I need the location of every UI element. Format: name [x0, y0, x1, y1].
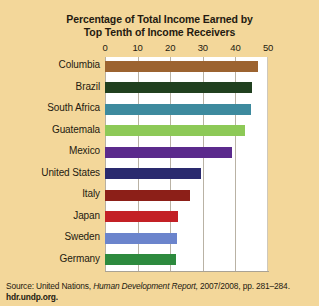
category-label-south-africa: South Africa: [47, 102, 100, 113]
x-tick-label-20: 20: [165, 42, 175, 53]
category-label-germany: Germany: [60, 253, 100, 264]
source-edition: 2007/2008,: [200, 281, 240, 291]
chart-title-line-2: Top Tenth of Income Receivers: [0, 26, 319, 39]
x-tick-label-30: 30: [198, 42, 208, 53]
category-label-japan: Japan: [73, 210, 100, 221]
chart-title-line-1: Percentage of Total Income Earned by: [66, 13, 252, 25]
x-tick-label-50: 50: [263, 42, 273, 53]
bar-brazil: [105, 82, 252, 93]
bar-japan: [105, 211, 178, 222]
x-axis-tick-labels: 01020304050: [0, 42, 319, 56]
bar-italy: [105, 190, 190, 201]
category-label-brazil: Brazil: [76, 81, 100, 92]
bar-rows: ColumbiaBrazilSouth AfricaGuatemalaMexic…: [0, 57, 319, 272]
category-label-guatemala: Guatemala: [52, 124, 100, 135]
bar-guatemala: [105, 125, 245, 136]
bar-south-africa: [105, 104, 251, 115]
bar-row: Columbia: [0, 57, 319, 79]
bar-row: South Africa: [0, 100, 319, 122]
source-url[interactable]: hdr.undp.org.: [6, 292, 316, 303]
x-tick-label-0: 0: [102, 42, 107, 53]
x-tick-label-10: 10: [133, 42, 143, 53]
category-label-sweden: Sweden: [64, 231, 100, 242]
bar-row: Guatemala: [0, 122, 319, 144]
bar-row: Mexico: [0, 143, 319, 165]
bar-united-states: [105, 168, 201, 179]
x-tick-label-40: 40: [230, 42, 240, 53]
bar-row: Brazil: [0, 79, 319, 101]
source-publication: Human Development Report,: [93, 281, 198, 291]
source-prefix: Source: United Nations,: [6, 281, 91, 291]
bar-row: Japan: [0, 208, 319, 230]
category-label-italy: Italy: [82, 188, 100, 199]
bar-row: Sweden: [0, 229, 319, 251]
category-label-mexico: Mexico: [69, 145, 100, 156]
bar-germany: [105, 254, 176, 265]
category-label-columbia: Columbia: [59, 59, 100, 70]
bar-row: Germany: [0, 251, 319, 273]
bar-mexico: [105, 147, 232, 158]
bar-row: Italy: [0, 186, 319, 208]
bar-columbia: [105, 61, 258, 72]
category-label-united-states: United States: [41, 167, 100, 178]
chart-figure: Percentage of Total Income Earned by Top…: [0, 0, 319, 306]
bar-sweden: [105, 233, 177, 244]
source-pages: pp. 281–284.: [243, 281, 290, 291]
bar-row: United States: [0, 165, 319, 187]
source-note: Source: United Nations, Human Developmen…: [6, 281, 316, 302]
chart-title: Percentage of Total Income Earned by Top…: [0, 13, 319, 39]
